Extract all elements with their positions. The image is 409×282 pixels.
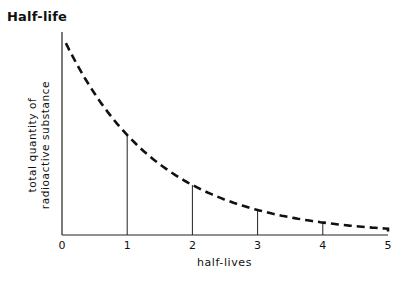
x-tick-label: 0 <box>59 239 66 252</box>
x-tick-label: 3 <box>254 239 261 252</box>
x-tick-label: 4 <box>319 239 326 252</box>
decay-chart: 012345 <box>0 0 409 282</box>
x-tick-label: 5 <box>385 239 392 252</box>
half-life-markers <box>127 135 323 235</box>
decay-curve <box>66 43 388 232</box>
x-tick-label: 1 <box>124 239 131 252</box>
x-axis-label: half-lives <box>0 256 409 269</box>
x-tick-label: 2 <box>189 239 196 252</box>
x-tick-labels: 012345 <box>59 239 392 252</box>
